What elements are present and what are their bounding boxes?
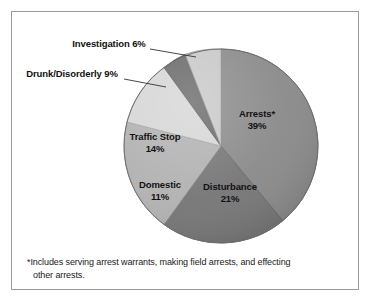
slice-label-domestic-name: Domestic (139, 179, 181, 190)
footnote-line-2: other arrests. (27, 269, 332, 282)
slice-label-domestic: Domestic 11% (122, 179, 198, 202)
pie-chart-figure: Investigation 6% Drunk/Disorderly 9% Arr… (0, 0, 372, 303)
callout-label-investigation-name: Investigation (72, 38, 129, 49)
slice-label-traffic-stop-name: Traffic Stop (129, 131, 180, 142)
slice-label-arrests-percent: 39% (215, 120, 299, 132)
footnote-line-1: *Includes serving arrest warrants, makin… (27, 257, 290, 267)
callout-label-investigation: Investigation 6% (68, 38, 150, 50)
slice-label-disturbance: Disturbance 21% (186, 181, 274, 204)
callout-label-drunk-disorderly-percent: 9% (104, 68, 118, 79)
slice-label-disturbance-percent: 21% (186, 193, 274, 205)
slice-label-arrests-name: Arrests* (239, 108, 275, 119)
slice-label-disturbance-name: Disturbance (203, 181, 257, 192)
slice-label-arrests: Arrests* 39% (215, 108, 299, 131)
callout-label-investigation-percent: 6% (132, 38, 146, 49)
slice-label-domestic-percent: 11% (122, 191, 198, 203)
slice-label-traffic-stop-percent: 14% (112, 143, 198, 155)
callout-label-drunk-disorderly-name: Drunk/Disorderly (26, 68, 101, 79)
slice-label-traffic-stop: Traffic Stop 14% (112, 131, 198, 154)
footnote: *Includes serving arrest warrants, makin… (27, 256, 332, 281)
callout-label-drunk-disorderly: Drunk/Disorderly 9% (24, 68, 120, 80)
